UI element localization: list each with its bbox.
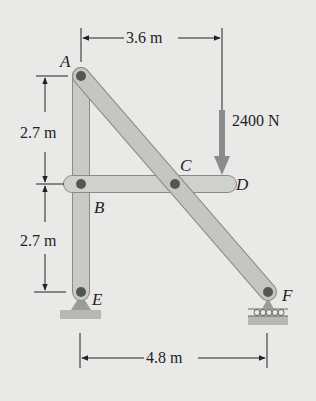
- frame-diagram: 2400 N 3.6 m 2.7 m 2.7 m 4.8 m A B C D E…: [0, 0, 316, 401]
- load-arrow: [214, 28, 230, 175]
- point-label-f: F: [281, 286, 293, 305]
- dim-lower-vertical-label: 2.7 m: [20, 232, 57, 249]
- point-label-c: C: [180, 156, 192, 175]
- pin-a: [76, 71, 86, 81]
- dim-upper-vertical-label: 2.7 m: [20, 124, 57, 141]
- pin-f: [263, 287, 273, 297]
- point-label-a: A: [59, 52, 71, 71]
- point-label-e: E: [91, 290, 103, 309]
- load-label: 2400 N: [232, 112, 280, 129]
- dim-bottom-label: 4.8 m: [146, 349, 183, 366]
- dim-top-label: 3.6 m: [126, 29, 163, 46]
- point-label-d: D: [235, 175, 249, 194]
- pin-c: [170, 179, 180, 189]
- pin-e: [76, 287, 86, 297]
- pin-b: [76, 179, 86, 189]
- point-label-b: B: [94, 198, 105, 217]
- dim-left: [34, 76, 68, 292]
